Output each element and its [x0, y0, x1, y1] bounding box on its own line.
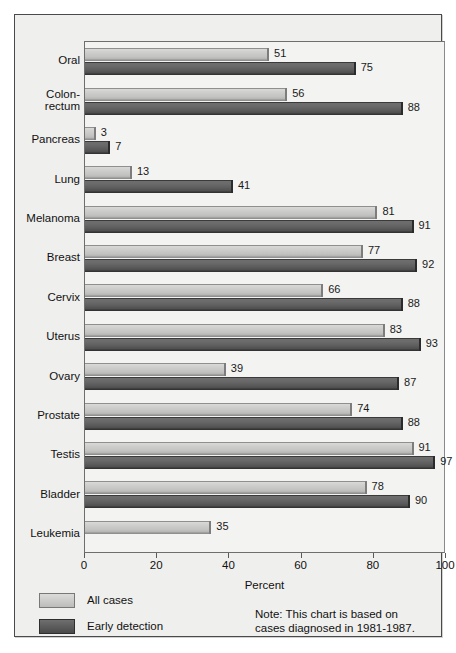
bar-all-cases	[85, 442, 414, 455]
bar-group: 7488	[85, 396, 444, 435]
bar-all-cases	[85, 48, 269, 61]
bar-group: 3987	[85, 357, 444, 396]
bar-group: 37	[85, 121, 444, 160]
bars-layer: 5175568837134181917792668883933987748891…	[85, 42, 444, 552]
bar-group: 5175	[85, 42, 444, 81]
x-axis-tick-label: 40	[222, 559, 235, 571]
x-axis-tick-label: 60	[294, 559, 307, 571]
bar-group: 8191	[85, 200, 444, 239]
bar-early-detection	[85, 338, 421, 351]
bar-early-detection	[85, 495, 410, 508]
bar-row: 13	[85, 166, 444, 179]
bar-value-label: 88	[408, 416, 420, 429]
bar-group: 35	[85, 515, 444, 554]
bar-row: 66	[85, 284, 444, 297]
category-label: Lung	[16, 173, 80, 186]
x-axis-title: Percent	[84, 579, 445, 591]
bar-value-label: 41	[238, 179, 250, 192]
legend-label: All cases	[87, 594, 133, 606]
bar-value-label: 97	[440, 455, 452, 468]
bar-value-label: 75	[361, 61, 373, 74]
bar-group: 1341	[85, 160, 444, 199]
bar-value-label: 88	[408, 297, 420, 310]
bar-row: 88	[85, 417, 444, 430]
category-axis: OralColon- rectumPancreasLungMelanomaBre…	[15, 41, 80, 553]
bar-row: 3	[85, 127, 444, 140]
category-label: Testis	[16, 448, 80, 461]
bar-early-detection	[85, 456, 435, 469]
bar-value-label: 3	[101, 126, 107, 139]
bar-all-cases	[85, 166, 132, 179]
bar-early-detection	[85, 259, 417, 272]
bar-value-label: 93	[426, 337, 438, 350]
x-axis-tick	[445, 553, 446, 558]
x-axis-tick	[228, 553, 229, 558]
bar-row: 88	[85, 102, 444, 115]
bar-row: 78	[85, 481, 444, 494]
bar-all-cases	[85, 324, 385, 337]
bar-row: 35	[85, 521, 444, 534]
bar-row: 97	[85, 456, 444, 469]
bar-row: 56	[85, 88, 444, 101]
bar-early-detection	[85, 102, 403, 115]
bar-row: 91	[85, 220, 444, 233]
bar-all-cases	[85, 521, 211, 534]
bar-all-cases	[85, 206, 377, 219]
legend-label: Early detection	[87, 620, 163, 632]
bar-early-detection	[85, 180, 233, 193]
bar-early-detection	[85, 62, 356, 75]
bar-early-detection	[85, 417, 403, 430]
chart-frame: OralColon- rectumPancreasLungMelanomaBre…	[14, 14, 442, 637]
bar-all-cases	[85, 481, 367, 494]
bar-value-label: 74	[357, 402, 369, 415]
plot-area: 5175568837134181917792668883933987748891…	[84, 41, 445, 553]
x-axis-tick-label: 0	[81, 559, 87, 571]
x-axis-tick-label: 100	[435, 559, 454, 571]
bar-all-cases	[85, 127, 96, 140]
bar-row: 93	[85, 338, 444, 351]
bar-value-label: 66	[328, 283, 340, 296]
category-label: Oral	[16, 54, 80, 67]
bar-value-label: 83	[390, 323, 402, 336]
bar-value-label: 88	[408, 101, 420, 114]
bar-early-detection	[85, 220, 414, 233]
category-label: Leukemia	[16, 527, 80, 540]
bar-row: 77	[85, 245, 444, 258]
category-label: Breast	[16, 251, 80, 264]
bar-row: 39	[85, 363, 444, 376]
bar-row: 83	[85, 324, 444, 337]
bar-group: 8393	[85, 318, 444, 357]
bar-value-label: 87	[404, 376, 416, 389]
category-label: Uterus	[16, 330, 80, 343]
bar-group: 7890	[85, 475, 444, 514]
legend-swatch	[39, 619, 75, 634]
bar-row: 75	[85, 62, 444, 75]
category-label: Cervix	[16, 291, 80, 304]
bar-all-cases	[85, 284, 323, 297]
bar-group: 9197	[85, 436, 444, 475]
bar-row: 81	[85, 206, 444, 219]
bar-row: 51	[85, 48, 444, 61]
x-axis-tick	[301, 553, 302, 558]
bar-all-cases	[85, 403, 352, 416]
bar-value-label: 91	[419, 219, 431, 232]
bar-value-label: 39	[231, 362, 243, 375]
x-axis: 020406080100	[84, 553, 445, 579]
bar-value-label: 81	[382, 205, 394, 218]
bar-value-label: 56	[292, 87, 304, 100]
bar-row: 92	[85, 259, 444, 272]
category-label: Colon- rectum	[16, 88, 80, 113]
bar-value-label: 13	[137, 165, 149, 178]
x-axis-tick-label: 80	[366, 559, 379, 571]
bar-row: 87	[85, 377, 444, 390]
legend-swatch	[39, 593, 75, 608]
bar-value-label: 77	[368, 244, 380, 257]
bar-row: 88	[85, 298, 444, 311]
bar-value-label: 51	[274, 47, 286, 60]
bar-value-label: 78	[372, 480, 384, 493]
chart-figure: OralColon- rectumPancreasLungMelanomaBre…	[0, 0, 456, 653]
bar-value-label: 92	[422, 258, 434, 271]
bar-all-cases	[85, 88, 287, 101]
category-label: Bladder	[16, 488, 80, 501]
bar-early-detection	[85, 298, 403, 311]
